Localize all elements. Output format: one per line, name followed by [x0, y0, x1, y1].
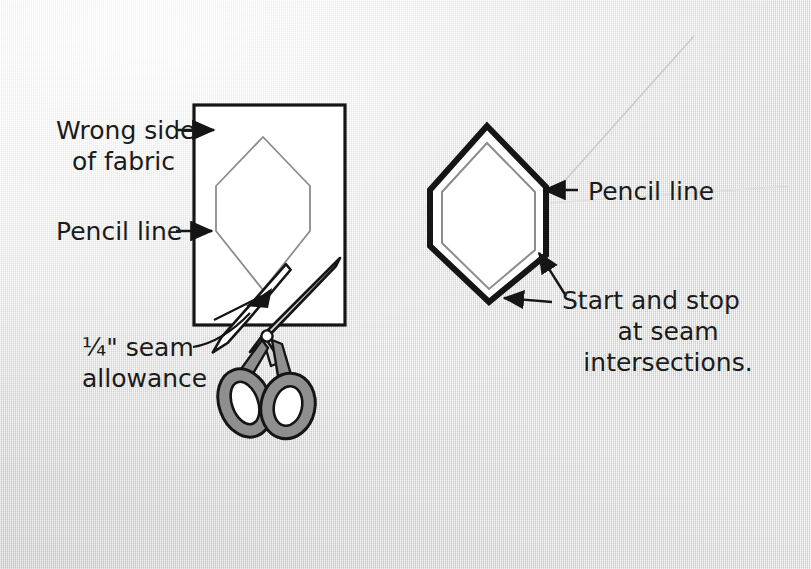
label-wrong-side-line1: Wrong side [56, 116, 196, 145]
cut-hexagon-figure [430, 126, 546, 302]
label-start-stop-line2: at seam [617, 317, 718, 346]
label-pencil-line-left: Pencil line [56, 217, 182, 246]
arrow-start-stop-lower [504, 298, 552, 302]
diagram-artwork: Wrong side of fabric Pencil line ¼" seam… [0, 0, 811, 569]
scan-crease-artifact [560, 36, 694, 186]
text-labels: Wrong side of fabric Pencil line ¼" seam… [56, 116, 753, 393]
label-pencil-line-right: Pencil line [588, 177, 714, 206]
label-seam-allowance-line2: allowance [82, 364, 207, 393]
label-start-stop-line1: Start and stop [562, 286, 740, 315]
label-wrong-side-line2: of fabric [72, 147, 175, 176]
scissors-pivot-screw [261, 330, 272, 341]
label-seam-allowance-line1: ¼" seam [82, 333, 194, 362]
label-start-stop-line3: intersections. [583, 348, 752, 377]
illustration-canvas: Wrong side of fabric Pencil line ¼" seam… [0, 0, 811, 569]
